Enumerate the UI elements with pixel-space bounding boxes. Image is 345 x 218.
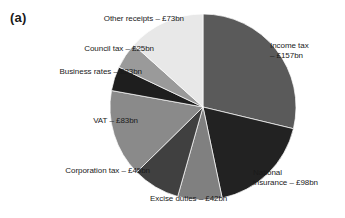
pie-label-excise-duties: Excise duties – £42bn xyxy=(150,194,262,204)
pie-label-council-tax: Council tax – £25bn xyxy=(44,44,154,54)
pie-chart-figure: (a) Income tax – £157bn National insuran… xyxy=(0,0,345,218)
pie-label-corporation-tax: Corporation tax – £45bn xyxy=(26,166,150,176)
pie-label-income-tax: Income tax – £157bn xyxy=(270,41,342,61)
pie-label-other-receipts: Other receipts – £73bn xyxy=(66,14,184,24)
pie-label-national-insurance: National insurance – £98bn xyxy=(253,168,341,188)
pie-label-business-rates: Business rates – £23bn xyxy=(18,67,142,77)
pie-label-vat: VAT – £83bn xyxy=(48,116,138,126)
